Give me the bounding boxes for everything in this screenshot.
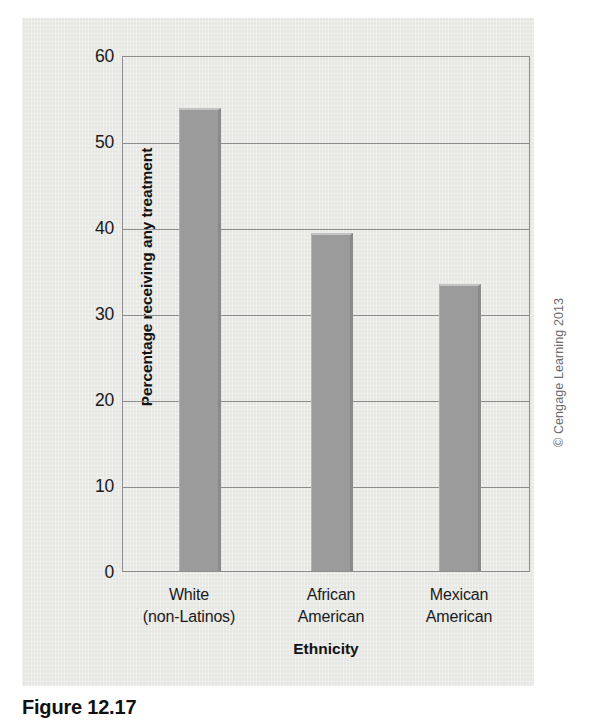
bar-mexican-american <box>439 284 481 571</box>
bar-african-american <box>311 233 353 571</box>
x-label-white-non-latinos: White (non-Latinos) <box>114 584 264 628</box>
y-tick-30: 30 <box>74 304 114 325</box>
y-axis-tick-labels: 60 50 40 30 20 10 0 <box>62 56 114 572</box>
plot-area <box>122 56 530 572</box>
y-tick-0: 0 <box>74 562 114 583</box>
y-tick-20: 20 <box>74 390 114 411</box>
x-label-line-1: White <box>114 584 264 606</box>
bar-white-non-latinos <box>179 108 221 571</box>
y-tick-50: 50 <box>74 132 114 153</box>
x-axis-title: Ethnicity <box>122 640 530 658</box>
x-label-line-2: American <box>384 606 534 628</box>
figure-caption: Figure 12.17 <box>22 696 136 719</box>
copyright-credit: © Cengage Learning 2013 <box>552 298 566 447</box>
x-label-line-2: (non-Latinos) <box>114 606 264 628</box>
x-label-mexican-american: Mexican American <box>384 584 534 628</box>
y-tick-60: 60 <box>74 46 114 67</box>
y-tick-40: 40 <box>74 218 114 239</box>
x-label-line-1: Mexican <box>384 584 534 606</box>
x-axis-category-labels: White (non-Latinos) African American Mex… <box>122 584 530 644</box>
y-tick-10: 10 <box>74 476 114 497</box>
figure-panel: Percentage receiving any treatment 60 50… <box>22 18 534 686</box>
